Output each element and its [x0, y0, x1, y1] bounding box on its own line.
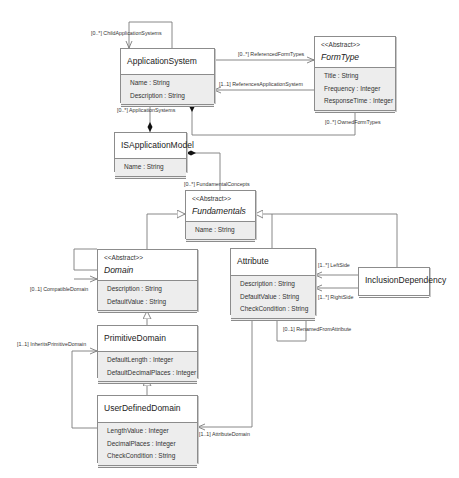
label-fundamental-concepts: [0..*] FundamentalConcepts [184, 181, 250, 188]
attribute-item: ResponseTime : Integer [324, 95, 389, 108]
attribute-item: Description : String [107, 283, 191, 296]
class-name: ISApplicationModel [121, 136, 180, 154]
composition-diamond-icon [148, 122, 153, 132]
class-name: InclusionDependency [365, 271, 423, 289]
label-referenced-form-types: [0..*] ReferencedFormTypes [238, 51, 304, 58]
stereotype-label: <<Abstract>> [104, 253, 191, 263]
label-inherits-primitive-domain: [1..1] InheritsPrimitiveDomain [17, 341, 86, 348]
class-attribute[interactable]: Attribute Description : String DefaultVa… [230, 248, 316, 315]
attribute-item: Title : String [324, 70, 389, 83]
label-renamed-from-attribute: [0..1] RenamedFromAttribute [283, 326, 351, 333]
label-owned-form-types: [0..*] OwnedFormTypes [325, 119, 381, 126]
attribute-item: CheckCondition : String [107, 450, 191, 463]
attribute-item: DefaultLength : Integer [107, 354, 191, 367]
class-inclusion-dependency[interactable]: InclusionDependency [358, 267, 430, 296]
stereotype-label: <<Abstract>> [192, 194, 249, 204]
stereotype-label: <<Abstract>> [321, 40, 389, 50]
attribute-item: Name : String [195, 224, 249, 237]
class-application-system[interactable]: ApplicationSystem Name : String Descript… [120, 48, 215, 103]
attribute-item: Name : String [130, 77, 208, 90]
attribute-item: Name : String [124, 161, 180, 174]
attribute-item: CheckCondition : String [240, 303, 309, 316]
label-right-side: [1..*] RightSide [318, 294, 353, 301]
label-child-application-systems: [0..*] ChildApplicationSystems [91, 30, 162, 37]
domain-generalization [147, 214, 185, 249]
class-user-defined-domain[interactable]: UserDefinedDomain LengthValue : Integer … [97, 395, 198, 463]
class-name: UserDefinedDomain [104, 399, 191, 417]
attribute-generalization [255, 214, 272, 248]
class-name: PrimitiveDomain [104, 329, 191, 347]
attribute-item: DefaultDecimalPlaces : Integer [107, 367, 191, 380]
class-fundamentals[interactable]: <<Abstract>> Fundamentals Name : String [185, 190, 256, 239]
class-name: Domain [104, 263, 191, 277]
class-name: ApplicationSystem [127, 52, 208, 70]
attribute-item: DecimalPlaces : Integer [107, 438, 191, 451]
attribute-item: DefaultValue : String [240, 291, 309, 304]
attribute-item: DefaultValue : String [107, 296, 191, 309]
label-application-systems: [0..*] ApplicationSystems [117, 107, 175, 114]
label-attribute-domain: [1..1] AttributeDomain [199, 431, 250, 438]
class-is-application-model[interactable]: ISApplicationModel Name : String [114, 132, 187, 172]
composition-diamond-icon [186, 151, 196, 156]
label-left-side: [1..*] LeftSide [318, 262, 350, 269]
class-name: FormType [321, 50, 389, 64]
attribute-item: Frequency : Integer [324, 83, 389, 96]
class-form-type[interactable]: <<Abstract>> FormType Title : String Fre… [314, 36, 396, 111]
class-domain[interactable]: <<Abstract>> Domain Description : String… [97, 249, 198, 311]
compatible-domain-link [74, 249, 97, 270]
label-references-application-system: [1..1] ReferencesApplicationSystem [219, 81, 303, 88]
attribute-item: Description : String [240, 278, 309, 291]
class-primitive-domain[interactable]: PrimitiveDomain DefaultLength : Integer … [97, 325, 198, 378]
attribute-item: Description : String [130, 90, 208, 103]
inherits-primitive-domain-link [72, 351, 97, 428]
attribute-item: LengthValue : Integer [107, 425, 191, 438]
class-name: Fundamentals [192, 204, 249, 218]
class-name: Attribute [237, 252, 309, 270]
attribute-domain-link [198, 314, 252, 427]
label-compatible-domain: [0..1] CompatibleDomain [30, 286, 88, 293]
